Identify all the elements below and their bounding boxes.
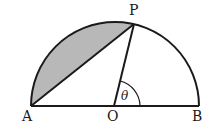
label-P: P [129, 2, 138, 18]
label-A: A [21, 108, 33, 124]
semicircle-diagram: A O B P θ [0, 0, 210, 127]
label-theta: θ [121, 89, 129, 103]
label-B: B [192, 108, 202, 124]
label-O: O [107, 108, 118, 124]
